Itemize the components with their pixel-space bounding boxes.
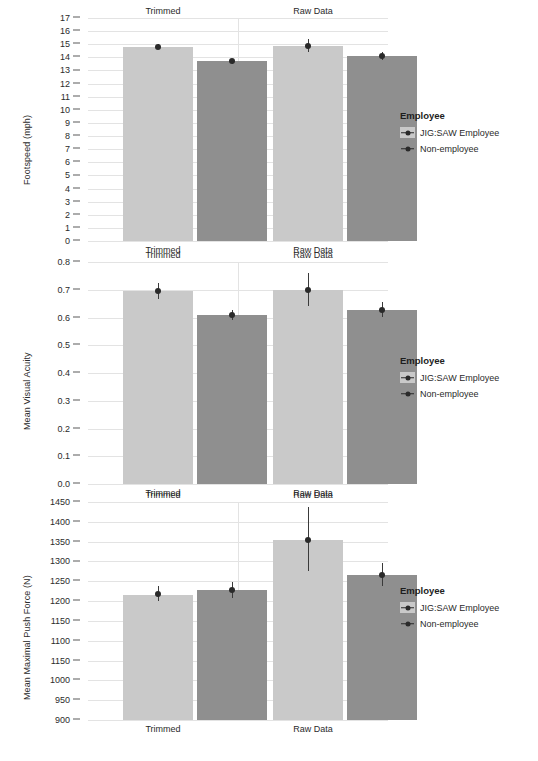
pointrange-key-icon: [400, 372, 415, 383]
y-tick-label: 1150: [51, 616, 80, 625]
error-bar-point: [305, 537, 311, 543]
y-tick-label: 0.4: [57, 369, 80, 378]
bar-raw-data-series-1: [273, 46, 343, 241]
bar-trimmed-series-1: [123, 47, 193, 241]
y-tick-label: 950: [55, 696, 80, 705]
facet-strip-label: Raw Data: [293, 250, 333, 260]
y-tick-label: 15: [60, 40, 80, 49]
legend-item-1[interactable]: JIG:SAW Employee: [400, 372, 499, 383]
y-tick-label: 1150: [51, 656, 80, 665]
legend-item-label: JIG:SAW Employee: [420, 603, 499, 613]
error-bar-point: [229, 58, 235, 64]
y-tick-label: 0.3: [57, 396, 80, 405]
y-tick-label: 12: [60, 79, 80, 88]
bar-trimmed-series-1: [123, 595, 193, 720]
y-tick-label: 1250: [50, 577, 80, 586]
error-bar-point: [229, 587, 235, 593]
facet-strip-label: Trimmed: [145, 250, 180, 260]
gridline: [88, 484, 388, 485]
y-tick-label: 6: [65, 158, 80, 167]
plot-area: [88, 502, 388, 720]
error-bar-point: [305, 43, 311, 49]
y-tick-label: 1200: [50, 597, 80, 606]
bar-raw-data-series-1: [273, 290, 343, 484]
bar-trimmed-series-2: [197, 315, 267, 484]
y-tick-label: 17: [60, 14, 80, 23]
facet-strip-label: Trimmed: [145, 490, 180, 500]
bar-trimmed-series-1: [123, 291, 193, 484]
pointrange-key-icon: [400, 618, 415, 629]
error-bar-point: [155, 591, 161, 597]
error-bar-point: [155, 44, 161, 50]
y-tick-label: 0.1: [57, 452, 80, 461]
legend-item-1[interactable]: JIG:SAW Employee: [400, 602, 499, 613]
legend-item-label: JIG:SAW Employee: [420, 373, 499, 383]
error-bar-point: [305, 287, 311, 293]
y-tick-label: 14: [60, 53, 80, 62]
legend-key-dot: [405, 375, 410, 380]
y-tick-label: 9: [65, 118, 80, 127]
y-tick-label: 0.6: [57, 313, 80, 322]
legend: EmployeeJIG:SAW EmployeeNon-employee: [400, 355, 499, 404]
legend-key-dot: [405, 605, 410, 610]
legend-title: Employee: [400, 585, 499, 596]
plot-area: [88, 262, 388, 484]
y-tick-label: 1300: [50, 557, 80, 566]
legend-item-label: Non-employee: [420, 144, 479, 154]
y-tick-label: 0.0: [57, 480, 80, 489]
y-tick-label: 0: [65, 237, 80, 246]
y-axis-title: Mean Maximal Push Force (N): [22, 575, 32, 700]
y-tick-label: 0.5: [57, 341, 80, 350]
error-bar-point: [379, 53, 385, 59]
legend: EmployeeJIG:SAW EmployeeNon-employee: [400, 110, 499, 159]
y-tick-label: 900: [55, 716, 80, 725]
legend-item-2[interactable]: Non-employee: [400, 143, 499, 154]
x-axis-label: Trimmed: [145, 724, 180, 734]
error-bar-point: [229, 312, 235, 318]
y-tick-label: 3: [65, 197, 80, 206]
legend-key-dot: [405, 621, 410, 626]
legend-item-2[interactable]: Non-employee: [400, 618, 499, 629]
error-bar-point: [379, 307, 385, 313]
y-tick-label: 1400: [50, 517, 80, 526]
legend-key-dot: [405, 130, 410, 135]
gridline: [88, 720, 388, 721]
pointrange-key-icon: [400, 388, 415, 399]
y-tick-label: 0.8: [57, 258, 80, 267]
y-tick-label: 8: [65, 132, 80, 141]
error-bar-point: [379, 572, 385, 578]
x-axis-label: Raw Data: [293, 724, 333, 734]
error-bar-point: [155, 288, 161, 294]
y-tick-label: 1350: [50, 537, 80, 546]
y-axis-title: Footspeed (mph): [22, 115, 32, 185]
facet-strip-label: Raw Data: [293, 490, 333, 500]
facet-strip-label: Trimmed: [145, 6, 180, 16]
y-tick-label: 4: [65, 184, 80, 193]
legend-item-label: Non-employee: [420, 619, 479, 629]
pointrange-key-icon: [400, 602, 415, 613]
legend-key-dot: [405, 146, 410, 151]
bar-trimmed-series-2: [197, 61, 267, 241]
legend-title: Employee: [400, 355, 499, 366]
legend: EmployeeJIG:SAW EmployeeNon-employee: [400, 585, 499, 634]
pointrange-key-icon: [400, 127, 415, 138]
legend-item-2[interactable]: Non-employee: [400, 388, 499, 399]
y-tick-label: 1450: [50, 498, 80, 507]
legend-item-label: Non-employee: [420, 389, 479, 399]
y-axis-title: Mean Visual Acuity: [22, 352, 32, 430]
y-tick-label: 2: [65, 210, 80, 219]
y-tick-label: 7: [65, 145, 80, 154]
pointrange-key-icon: [400, 143, 415, 154]
y-tick-label: 1: [65, 223, 80, 232]
y-tick-label: 1000: [50, 676, 80, 685]
y-tick-label: 0.7: [57, 285, 80, 294]
gridline: [88, 241, 388, 242]
bar-trimmed-series-2: [197, 590, 267, 720]
legend-item-1[interactable]: JIG:SAW Employee: [400, 127, 499, 138]
y-tick-label: 1100: [51, 636, 80, 645]
y-tick-label: 0.2: [57, 424, 80, 433]
y-tick-label: 10: [60, 105, 80, 114]
y-tick-label: 5: [65, 171, 80, 180]
legend-key-dot: [405, 391, 410, 396]
facet-strip-label: Raw Data: [293, 6, 333, 16]
